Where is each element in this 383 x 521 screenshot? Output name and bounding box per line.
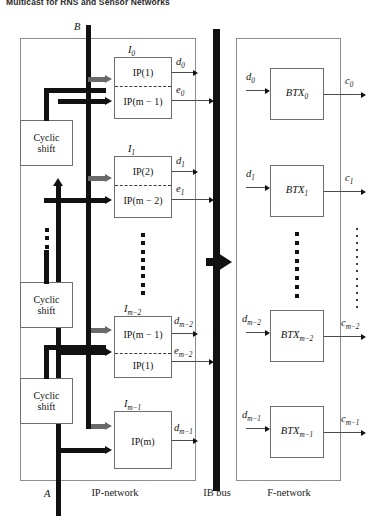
input-b-line (86, 25, 91, 325)
ip-block-1-input-lower-arrow (105, 196, 112, 204)
f-block-1-label: BTX1 (286, 184, 308, 198)
ip-block-0-cell-0: IP(1) (115, 67, 171, 78)
f-block-1-output-line (324, 191, 364, 192)
ip-block-1-output-e-line (172, 199, 212, 200)
ip-block-3-label: Im−1 (124, 398, 141, 412)
cyclic-shift-line2: shift (38, 401, 56, 412)
f-block-3-output-line (324, 432, 364, 433)
ip-block-ellipsis (140, 233, 145, 295)
ip-block-1-label: I1 (128, 143, 135, 157)
ip-block-1-output-e-label: e1 (176, 183, 184, 197)
cyclic2-out-vertical (44, 250, 49, 284)
b-feed-vertical-0 (88, 77, 93, 81)
ip-block-1-cell-1: IP(m − 2) (115, 195, 171, 206)
ip-block-0-output-d-line (172, 72, 194, 73)
input-b-label: B (74, 21, 80, 32)
cyclic-shift-box-1: Cyclic shift (20, 120, 73, 166)
f-block-2-output-arrow (361, 334, 366, 340)
ip-block-1-input-lower-line (44, 198, 106, 203)
ip-block-2: IP(m − 1) IP(1) (114, 316, 172, 378)
f-block-2-output-line (324, 336, 364, 337)
f-block-2-label: BTXm−2 (281, 329, 313, 343)
ip-block-2-input-upper-arrow (105, 326, 112, 334)
f-block-3: BTXm−1 (270, 406, 324, 458)
cyclic-shift-box-2: Cyclic shift (20, 282, 73, 328)
ib-bus-main-arrow-shaft (206, 258, 222, 266)
ip-block-2-output-d-arrow (193, 331, 198, 337)
cyclic3-out-vertical (44, 345, 49, 379)
ip-block-3-output-d-label: dm−1 (174, 422, 193, 436)
f-block-3-label: BTXm−1 (281, 425, 313, 439)
f-block-0-input-arrow (265, 88, 270, 94)
f-block-1-input-arrow (265, 185, 270, 191)
ip-block-3-input-lower-line (58, 448, 106, 453)
f-block-2-input-label: dm−2 (242, 313, 261, 327)
ip-block-0-output-e-arrow (209, 98, 214, 104)
ip-block-1-input-upper-arrow (105, 174, 112, 182)
b-feed-vertical-1 (88, 176, 93, 180)
f-block-1-output-arrow (361, 189, 366, 195)
ip-block-0-output-d-arrow (193, 70, 198, 76)
cyclic-shift-line1: Cyclic (33, 132, 59, 143)
figure-canvas: Multicast for RNS and Sensor Networks IP… (0, 0, 383, 521)
f-block-1-input-line (246, 187, 266, 188)
f-block-1: BTX1 (270, 165, 324, 217)
ip-network-label: IP-network (60, 487, 170, 498)
f-block-0-input-label: d0 (246, 71, 255, 85)
cyclic1-out-horizontal (44, 88, 106, 93)
ib-bus-label: IB bus (186, 487, 248, 498)
ip-block-1-output-d-label: d1 (176, 155, 185, 169)
ip-block-1-divider (115, 185, 171, 186)
ip-block-0-output-e-label: e0 (176, 84, 184, 98)
ip-block-1-output-d-arrow (193, 169, 198, 175)
f-network-label: F-network (246, 487, 332, 498)
running-head: Multicast for RNS and Sensor Networks (6, 0, 170, 7)
ip-block-0-label: I0 (128, 44, 135, 58)
cyclic-shift-box-3: Cyclic shift (20, 378, 73, 424)
ip-block-2-input-lower-line (58, 350, 106, 355)
ip-block-2-cell-1: IP(1) (115, 360, 171, 371)
f-block-3-input-label: dm−1 (242, 409, 261, 423)
ip-block-1: IP(2) IP(m − 2) (114, 156, 172, 218)
cyclic-shift-line2: shift (38, 305, 56, 316)
ip-block-2-input-lower-arrow (105, 348, 112, 356)
ip-block-3-input-upper-arrow (105, 422, 112, 430)
f-block-2: BTXm−2 (270, 310, 324, 362)
ip-block-3: IP(m) (114, 411, 172, 469)
f-block-0-output-label: c0 (345, 75, 353, 89)
f-block-3-input-line (246, 428, 266, 429)
f-block-3-input-arrow (265, 426, 270, 432)
ip-block-2-cell-0: IP(m − 1) (115, 329, 171, 340)
ip-block-3-input-lower-arrow (105, 446, 112, 454)
ip-block-2-output-d-line (172, 333, 194, 334)
f-block-2-input-line (246, 332, 266, 333)
f-block-0: BTX0 (270, 68, 324, 120)
f-block-2-output-label: cm−2 (341, 317, 359, 331)
f-block-3-output-label: cm−1 (341, 413, 359, 427)
cyclic-shift-line1: Cyclic (33, 390, 59, 401)
ip-block-0-input-lower-line (58, 99, 106, 104)
ip-block-1-output-d-line (172, 171, 194, 172)
f-block-0-input-line (246, 90, 266, 91)
f-output-ellipsis (355, 228, 358, 308)
f-block-0-label: BTX0 (286, 87, 308, 101)
ip-block-0: IP(1) IP(m − 1) (114, 57, 172, 119)
ip-block-2-output-d-label: dm−2 (174, 315, 193, 329)
ip-block-2-output-e-label: em−2 (174, 345, 192, 359)
f-block-2-input-arrow (265, 330, 270, 336)
cyclic-shift-line2: shift (38, 143, 56, 154)
input-a-label: A (44, 488, 50, 499)
ip-block-3-output-d-line (172, 440, 194, 441)
f-block-3-output-arrow (361, 430, 366, 436)
b-line-lower-segment (86, 325, 91, 429)
f-block-1-input-label: d1 (246, 168, 255, 182)
f-block-0-output-line (324, 94, 364, 95)
ip-block-2-label: Im−2 (124, 303, 141, 317)
ip-block-1-output-e-arrow (209, 197, 214, 203)
ip-block-2-output-e-line (172, 361, 212, 362)
ip-block-0-output-e-line (172, 100, 212, 101)
ip-block-0-input-lower-arrow (105, 97, 112, 105)
ip-block-2-output-e-arrow (209, 359, 214, 365)
cyclic-shift-line1: Cyclic (33, 294, 59, 305)
ip-block-1-cell-0: IP(2) (115, 166, 171, 177)
